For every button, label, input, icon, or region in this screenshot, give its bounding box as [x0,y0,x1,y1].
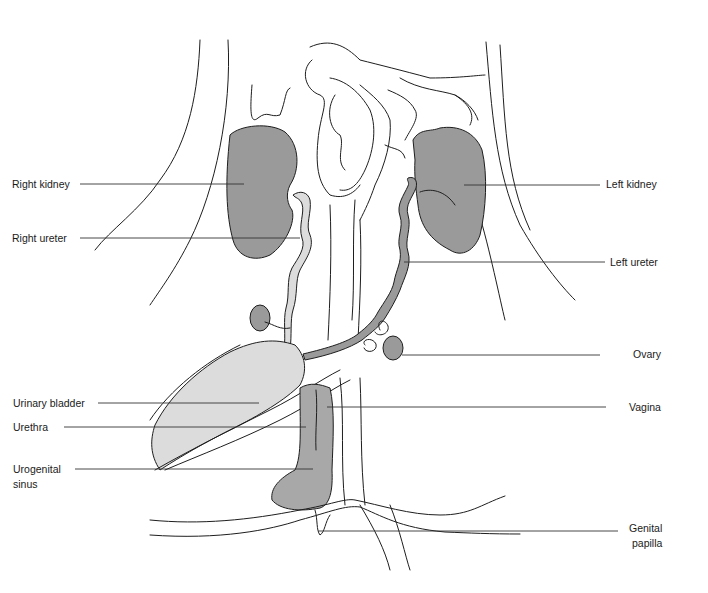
label-urogenital-sinus-line1: Urogenital [13,463,61,476]
leader-lines [64,184,618,531]
urinary-bladder-shape [152,341,305,470]
bottom-outlines [150,496,520,570]
label-urinary-bladder: Urinary bladder [13,397,85,410]
left-kidney-shape [413,127,486,253]
label-ovary: Ovary [633,348,661,361]
label-left-ureter: Left ureter [610,256,658,269]
right-ovary-shape [250,305,270,331]
ovary-shape [383,336,403,360]
label-left-kidney: Left kidney [606,178,657,191]
label-genital-papilla-line1: Genital [629,522,662,535]
label-genital-papilla-line2: papilla [632,537,662,550]
label-right-ureter: Right ureter [12,232,67,245]
label-vagina: Vagina [629,401,661,414]
label-right-kidney: Right kidney [12,178,70,191]
urogenital-sinus-shape [272,384,334,510]
label-urogenital-sinus-line2: sinus [13,478,38,491]
label-urethra: Urethra [13,421,48,434]
body-wall-lines [95,40,575,320]
anatomy-drawing [0,0,708,593]
left-ureter-shape [303,177,417,360]
